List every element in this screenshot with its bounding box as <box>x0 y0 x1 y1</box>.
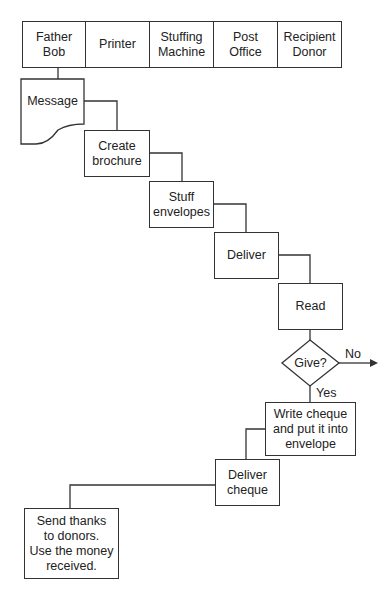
lane-post-office: Post Office <box>213 21 278 68</box>
lane-printer: Printer <box>85 21 150 68</box>
lane-label: Stuffing Machine <box>158 30 205 60</box>
lane-label: Father Bob <box>36 30 72 60</box>
step-deliver: Deliver <box>214 232 279 279</box>
lane-father-bob: Father Bob <box>22 21 86 68</box>
decision-label: Give? <box>294 356 327 371</box>
connector-write-deliver-cheque <box>246 429 265 459</box>
step-stuff-envelopes: Stuff envelopes <box>149 181 214 228</box>
connector-message-create <box>84 101 117 130</box>
connector-deliver-cheque-thanks <box>70 485 215 508</box>
arrow-head-icon <box>370 359 378 367</box>
lane-label: Printer <box>99 37 136 52</box>
step-label: Message <box>27 94 78 109</box>
step-message: Message <box>21 88 84 114</box>
step-label: Read <box>296 299 326 314</box>
branch-yes-label: Yes <box>316 386 336 400</box>
step-label: Create brochure <box>92 139 141 169</box>
connector-stuff-deliver <box>214 204 246 232</box>
decision-give: Give? <box>282 355 339 371</box>
step-create-brochure: Create brochure <box>84 130 150 177</box>
branch-no-label: No <box>345 347 361 361</box>
step-read: Read <box>278 283 343 330</box>
step-deliver-cheque: Deliver cheque <box>215 459 280 506</box>
step-label: Write cheque and put it into envelope <box>273 407 348 452</box>
lane-stuffing-machine: Stuffing Machine <box>149 21 214 68</box>
step-label: Stuff envelopes <box>153 190 210 220</box>
step-write-cheque: Write cheque and put it into envelope <box>265 402 356 456</box>
step-label: Deliver cheque <box>227 468 268 498</box>
step-send-thanks: Send thanks to donors. Use the money rec… <box>24 508 119 579</box>
lane-label: Recipient Donor <box>283 30 335 60</box>
lane-label: Post Office <box>229 30 261 60</box>
step-label: Deliver <box>227 248 266 263</box>
step-label: Send thanks to donors. Use the money rec… <box>29 514 113 574</box>
connector-deliver-read <box>278 255 310 283</box>
connector-create-stuff <box>150 153 182 181</box>
lane-recipient-donor: Recipient Donor <box>277 21 342 68</box>
